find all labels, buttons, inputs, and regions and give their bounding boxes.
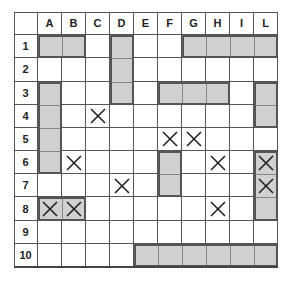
ship-e10-l10 (134, 244, 278, 267)
grid-cell-d5[interactable] (110, 128, 134, 151)
grid-cell-g7[interactable] (182, 174, 206, 197)
grid-cell-g8[interactable] (182, 197, 206, 220)
grid-cell-d4[interactable] (110, 105, 134, 128)
grid-cell-c7[interactable] (86, 174, 110, 197)
grid-cell-a10[interactable] (38, 244, 62, 267)
grid-cell-c2[interactable] (86, 58, 110, 81)
grid-cell-c8[interactable] (86, 197, 110, 220)
x-mark-icon (86, 105, 110, 128)
grid-cell-b3[interactable] (62, 82, 86, 105)
x-mark-icon (110, 174, 134, 197)
grid-cell-f8[interactable] (158, 197, 182, 220)
grid-cell-e3[interactable] (134, 82, 158, 105)
column-header-i: I (230, 12, 254, 35)
grid-cell-i7[interactable] (230, 174, 254, 197)
grid-cell-i6[interactable] (230, 151, 254, 174)
column-header-e: E (134, 12, 158, 35)
column-header-f: F (158, 12, 182, 35)
grid-cell-i3[interactable] (230, 82, 254, 105)
grid-cell-b5[interactable] (62, 128, 86, 151)
ship-f3-h3 (158, 82, 230, 105)
grid-cell-h4[interactable] (206, 105, 230, 128)
grid-cell-i2[interactable] (230, 58, 254, 81)
column-header-c: C (86, 12, 110, 35)
ship-d1-d3 (110, 35, 134, 105)
row-header-5: 5 (14, 128, 38, 151)
grid-cell-f2[interactable] (158, 58, 182, 81)
grid-cell-b10[interactable] (62, 244, 86, 267)
row-header-8: 8 (14, 197, 38, 220)
grid-cell-e4[interactable] (134, 105, 158, 128)
x-mark-icon (182, 128, 206, 151)
grid-cell-f4[interactable] (158, 105, 182, 128)
column-header-a: A (38, 12, 62, 35)
grid-cell-g2[interactable] (182, 58, 206, 81)
grid-cell-e8[interactable] (134, 197, 158, 220)
grid-cell-l9[interactable] (254, 221, 278, 244)
column-header-d: D (110, 12, 134, 35)
grid-cell-b7[interactable] (62, 174, 86, 197)
grid-cell-d8[interactable] (110, 197, 134, 220)
column-header-h: H (206, 12, 230, 35)
grid-cell-e9[interactable] (134, 221, 158, 244)
grid-cell-a9[interactable] (38, 221, 62, 244)
grid-cell-e7[interactable] (134, 174, 158, 197)
row-header-1: 1 (14, 35, 38, 58)
grid-cell-c9[interactable] (86, 221, 110, 244)
grid-cell-e5[interactable] (134, 128, 158, 151)
grid-cell-c6[interactable] (86, 151, 110, 174)
grid-cell-i8[interactable] (230, 197, 254, 220)
grid-cell-i5[interactable] (230, 128, 254, 151)
grid-cell-g4[interactable] (182, 105, 206, 128)
grid-cell-b2[interactable] (62, 58, 86, 81)
grid-cell-e6[interactable] (134, 151, 158, 174)
grid-cell-h2[interactable] (206, 58, 230, 81)
grid-cell-d10[interactable] (110, 244, 134, 267)
grid-cell-l5[interactable] (254, 128, 278, 151)
grid-cell-i9[interactable] (230, 221, 254, 244)
grid-cell-b4[interactable] (62, 105, 86, 128)
row-header-9: 9 (14, 221, 38, 244)
grid-cell-c1[interactable] (86, 35, 110, 58)
grid-cell-e2[interactable] (134, 58, 158, 81)
grid-cell-c5[interactable] (86, 128, 110, 151)
grid-cell-f9[interactable] (158, 221, 182, 244)
ship-a3-a6 (38, 82, 62, 175)
grid-cell-g6[interactable] (182, 151, 206, 174)
grid-bottom-border (14, 266, 278, 268)
x-mark-icon (62, 197, 86, 220)
corner-cell (14, 12, 38, 35)
grid-cell-d6[interactable] (110, 151, 134, 174)
ship-l3-l4 (254, 82, 278, 128)
battleship-grid: ABCDEFGHIL12345678910 (14, 12, 278, 267)
x-mark-icon (38, 197, 62, 220)
ship-g1-l1 (182, 35, 278, 58)
grid-cell-i4[interactable] (230, 105, 254, 128)
x-mark-icon (254, 174, 278, 197)
row-header-2: 2 (14, 58, 38, 81)
grid-cell-h5[interactable] (206, 128, 230, 151)
column-header-g: G (182, 12, 206, 35)
ship-a1-b1 (38, 35, 86, 58)
grid-cell-b9[interactable] (62, 221, 86, 244)
x-mark-icon (158, 128, 182, 151)
grid-cell-e1[interactable] (134, 35, 158, 58)
x-mark-icon (206, 197, 230, 220)
grid-cell-g9[interactable] (182, 221, 206, 244)
grid-cell-a2[interactable] (38, 58, 62, 81)
column-header-l: L (254, 12, 278, 35)
grid-cell-d9[interactable] (110, 221, 134, 244)
x-mark-icon (62, 151, 86, 174)
x-mark-icon (254, 151, 278, 174)
row-header-4: 4 (14, 105, 38, 128)
grid-cell-h9[interactable] (206, 221, 230, 244)
grid-cell-l2[interactable] (254, 58, 278, 81)
grid-cell-h7[interactable] (206, 174, 230, 197)
column-header-b: B (62, 12, 86, 35)
grid-cell-a7[interactable] (38, 174, 62, 197)
row-header-6: 6 (14, 151, 38, 174)
grid-cell-c10[interactable] (86, 244, 110, 267)
grid-cell-f1[interactable] (158, 35, 182, 58)
grid-cell-c3[interactable] (86, 82, 110, 105)
row-header-10: 10 (14, 244, 38, 267)
